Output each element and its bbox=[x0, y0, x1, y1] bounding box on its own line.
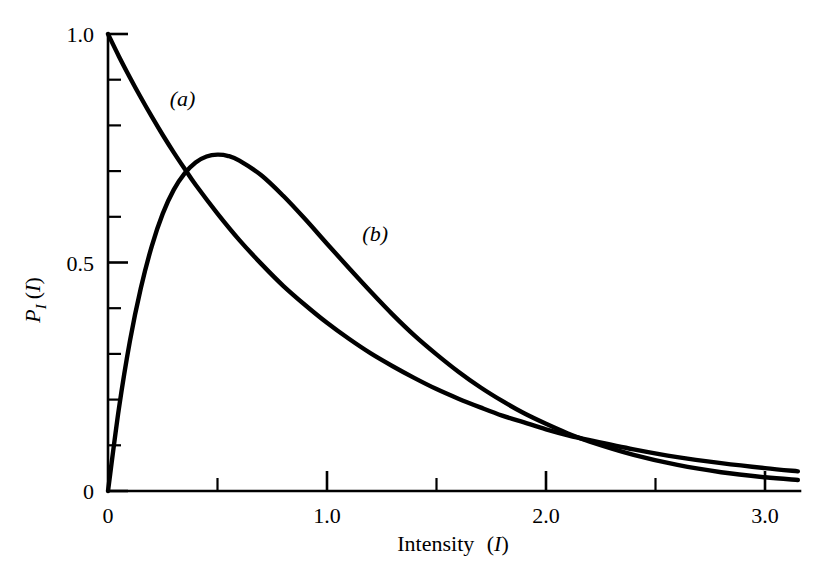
chart-canvas: 00.51.0 01.02.03.0 (a)(b) Intensity (I) … bbox=[0, 0, 824, 583]
x-tick-label: 3.0 bbox=[751, 503, 779, 528]
x-axis-title-text: Intensity (I) bbox=[397, 531, 508, 556]
x-tick-label: 2.0 bbox=[532, 503, 560, 528]
y-axis-title-paren-close: ) bbox=[20, 277, 45, 284]
y-axis-title-main: P bbox=[20, 309, 45, 323]
y-axis-title-text: PI(I) bbox=[20, 277, 49, 323]
y-axis-title-subscript: I bbox=[33, 303, 49, 310]
data-curves bbox=[108, 34, 798, 491]
x-axis-title-plain: Intensity bbox=[397, 531, 474, 556]
curve-tag-b: (b) bbox=[362, 221, 388, 246]
x-axis-title-paren-open: ( bbox=[487, 531, 494, 556]
x-axis-tick-labels: 01.02.03.0 bbox=[103, 503, 779, 528]
x-tick-label: 1.0 bbox=[313, 503, 341, 528]
y-axis-title: PI(I) bbox=[20, 277, 49, 323]
axes-group bbox=[108, 34, 800, 491]
y-tick-label: 1.0 bbox=[67, 22, 95, 47]
curve-tag-labels: (a)(b) bbox=[170, 86, 388, 246]
x-axis-title-paren-close: ) bbox=[501, 531, 508, 556]
y-tick-label: 0.5 bbox=[67, 251, 95, 276]
x-axis-ticks bbox=[218, 471, 766, 491]
y-axis-title-paren-open: ( bbox=[20, 292, 45, 299]
y-axis-tick-labels: 00.51.0 bbox=[67, 22, 95, 504]
y-tick-label: 0 bbox=[83, 479, 94, 504]
curve-a bbox=[108, 34, 798, 471]
figure-root: 00.51.0 01.02.03.0 (a)(b) Intensity (I) … bbox=[0, 0, 824, 583]
x-tick-label: 0 bbox=[103, 503, 114, 528]
x-axis-title: Intensity (I) bbox=[397, 531, 508, 556]
curve-tag-a: (a) bbox=[170, 86, 196, 111]
